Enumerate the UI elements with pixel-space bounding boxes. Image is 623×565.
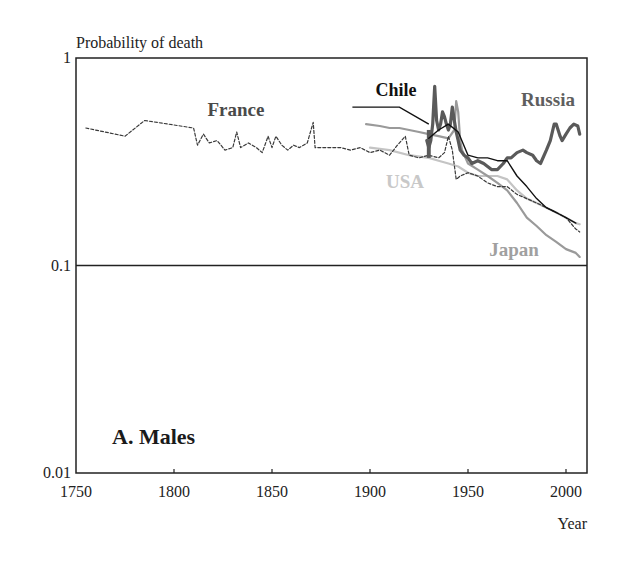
series-label-france: France — [208, 99, 265, 120]
x-axis-label: Year — [558, 515, 588, 532]
x-tick-label: 1750 — [60, 483, 92, 500]
y-axis-ticks: 10.10.01 — [43, 49, 71, 481]
panel-label: A. Males — [112, 424, 196, 449]
y-tick-label: 0.1 — [51, 257, 71, 274]
x-tick-label: 2000 — [550, 483, 582, 500]
series-label-japan: Japan — [489, 239, 539, 260]
x-tick-label: 1850 — [256, 483, 288, 500]
y-tick-label: 1 — [63, 49, 71, 66]
y-tick-label: 0.01 — [43, 464, 71, 481]
chile-leader-line — [352, 107, 428, 124]
series-label-russia: Russia — [521, 89, 575, 110]
series-label-usa: USA — [386, 171, 424, 192]
series-lines — [86, 86, 580, 257]
y-axis-label: Probability of death — [76, 34, 203, 52]
series-label-chile: Chile — [375, 80, 416, 100]
series-line-france — [86, 121, 580, 233]
series-line-chile — [429, 124, 576, 223]
mortality-chart: Probability of death Year 10.10.01 17501… — [0, 0, 623, 565]
x-tick-label: 1800 — [158, 483, 190, 500]
x-tick-label: 1950 — [452, 483, 484, 500]
x-tick-label: 1900 — [354, 483, 386, 500]
